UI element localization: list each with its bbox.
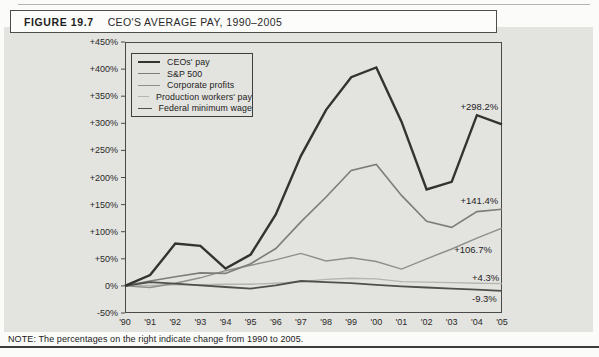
x-tick-label: '02 — [421, 317, 433, 327]
legend-item: Federal minimum wage — [138, 104, 252, 113]
x-tick-label: '95 — [245, 317, 257, 327]
legend-label: Federal minimum wage — [159, 103, 252, 113]
x-tick-label: '00 — [370, 317, 382, 327]
legend-line-swatch — [138, 73, 160, 74]
chart-legend: CEOs' payS&P 500Corporate profitsProduct… — [131, 53, 253, 117]
x-tick-label: '04 — [471, 317, 483, 327]
x-tick-label: '97 — [295, 317, 307, 327]
y-tick-label: +450% — [90, 37, 118, 47]
change-annotation: -9.3% — [472, 293, 497, 304]
x-tick-label: '91 — [144, 317, 156, 327]
y-tick-label: +50% — [95, 254, 118, 264]
change-annotation: +4.3% — [472, 272, 500, 283]
legend-item: Corporate profits — [138, 81, 252, 90]
x-tick-label: '94 — [220, 317, 232, 327]
series-line-corporate-profits — [125, 228, 502, 287]
legend-item: Production workers' pay — [138, 92, 252, 101]
x-tick-label: '98 — [320, 317, 332, 327]
x-tick-label: '01 — [396, 317, 408, 327]
x-tick-label: '03 — [446, 317, 458, 327]
legend-label: Corporate profits — [167, 80, 234, 90]
x-tick-label: '99 — [345, 317, 357, 327]
figure-note: NOTE: The percentages on the right indic… — [8, 334, 303, 344]
change-annotation: +298.2% — [460, 101, 498, 112]
legend-label: Production workers' pay — [156, 92, 252, 102]
page-top-rule — [18, 4, 590, 5]
x-tick-label: '93 — [195, 317, 207, 327]
y-tick-label: +400% — [90, 64, 118, 74]
annotations: +298.2%+141.4%+106.7%+4.3%-9.3% — [454, 101, 500, 304]
legend-line-swatch — [138, 96, 149, 97]
y-tick-label: +200% — [90, 173, 118, 183]
legend-line-swatch — [138, 61, 160, 63]
page-bottom-rule — [0, 346, 599, 348]
y-tick-label: +250% — [90, 145, 118, 155]
y-tick-label: +150% — [90, 200, 118, 210]
legend-line-swatch — [138, 85, 160, 86]
y-tick-label: 0% — [105, 281, 118, 291]
legend-item: CEOs' pay — [138, 58, 252, 67]
x-tick-label: '90 — [119, 317, 131, 327]
figure-title: CEO'S AVERAGE PAY, 1990–2005 — [108, 16, 283, 28]
y-tick-label: +350% — [90, 91, 118, 101]
legend-label: S&P 500 — [167, 69, 202, 79]
y-tick-label: -50% — [97, 308, 118, 318]
change-annotation: +141.4% — [460, 195, 498, 206]
x-tick-label: '96 — [270, 317, 282, 327]
y-tick-label: +100% — [90, 227, 118, 237]
change-annotation: +106.7% — [454, 244, 492, 255]
legend-item: S&P 500 — [138, 69, 252, 78]
figure-title-bar: FIGURE 19.7 CEO'S AVERAGE PAY, 1990–2005 — [10, 10, 497, 33]
y-tick-label: +300% — [90, 118, 118, 128]
x-tick-label: '92 — [169, 317, 181, 327]
legend-line-swatch — [138, 108, 152, 109]
x-tick-label: '05 — [496, 317, 508, 327]
figure-number-label: FIGURE 19.7 — [24, 16, 94, 28]
legend-label: CEOs' pay — [167, 57, 210, 67]
